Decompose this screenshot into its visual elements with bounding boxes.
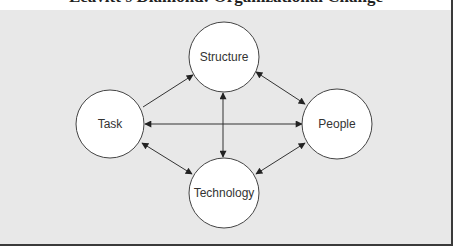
node-task: Task (76, 90, 144, 158)
node-label-technology: Technology (194, 186, 255, 200)
node-label-structure: Structure (200, 50, 249, 64)
edge-technology-people (256, 143, 305, 174)
node-technology: Technology (189, 158, 259, 228)
edge-structure-people (256, 72, 305, 104)
edge-task-structure (143, 75, 193, 107)
node-structure: Structure (189, 22, 259, 92)
edge-task-technology (142, 143, 192, 174)
node-label-people: People (318, 117, 356, 131)
leavitt-diagram: Structure Task People Technology (0, 0, 459, 252)
node-people: People (302, 89, 372, 159)
node-label-task: Task (98, 117, 124, 131)
